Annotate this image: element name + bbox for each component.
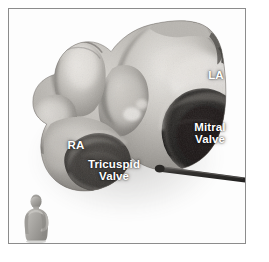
- figure-frame: LA RA Mitral Valve Tricuspid Valve: [8, 8, 246, 244]
- human-body-scale-reference-icon: [21, 192, 55, 244]
- figure-root: LA RA Mitral Valve Tricuspid Valve: [0, 0, 269, 262]
